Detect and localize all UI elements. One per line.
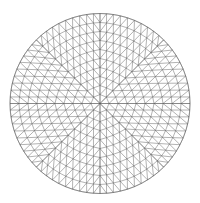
mesh-edges [10, 14, 190, 194]
mesh-edge-path [10, 14, 190, 194]
disc-mesh [0, 0, 200, 203]
mesh-figure [0, 0, 200, 203]
